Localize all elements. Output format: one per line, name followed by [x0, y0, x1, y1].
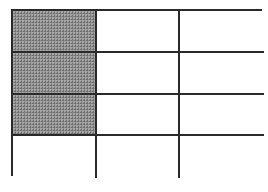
unshaded-cell — [97, 53, 180, 95]
shaded-cell — [13, 53, 97, 95]
shaded-cell — [13, 11, 97, 53]
unshaded-cell — [180, 11, 264, 53]
unshaded-cell — [180, 95, 264, 136]
unshaded-cell — [97, 136, 180, 178]
fraction-grid — [11, 9, 262, 176]
unshaded-cell — [180, 136, 264, 178]
shaded-cell — [13, 95, 97, 136]
unshaded-cell — [13, 136, 97, 178]
unshaded-cell — [180, 53, 264, 95]
unshaded-cell — [97, 11, 180, 53]
unshaded-cell — [97, 95, 180, 136]
